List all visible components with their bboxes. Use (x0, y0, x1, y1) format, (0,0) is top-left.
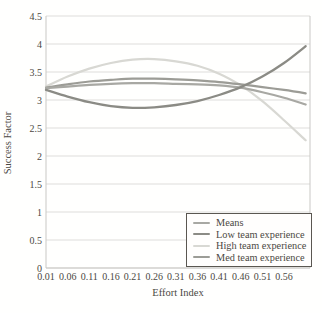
legend-swatch (193, 245, 210, 247)
legend-swatch (193, 256, 210, 258)
x-axis-title: Effort Index (152, 287, 204, 298)
x-tick-label: 0.11 (81, 271, 98, 282)
x-tick-label: 0.06 (59, 271, 77, 282)
x-tick-label: 0.41 (210, 271, 228, 282)
legend-swatch (193, 233, 210, 235)
y-tick-label: 3.5 (30, 67, 43, 78)
x-tick-label: 0.01 (37, 271, 55, 282)
series-lines (46, 46, 306, 140)
legend-item: High team experience (193, 240, 307, 252)
legend-swatch (193, 222, 210, 224)
legend: MeansLow team experienceHigh team experi… (186, 213, 312, 267)
y-tick-label: 1 (37, 207, 42, 218)
x-tick-label: 0.26 (145, 271, 163, 282)
y-tick-label: 2 (37, 151, 42, 162)
legend-item: Low team experience (193, 229, 307, 241)
y-tick-label: 1.5 (30, 179, 43, 190)
legend-item: Means (193, 217, 307, 229)
x-tick-label: 0.16 (102, 271, 120, 282)
legend-label: Low team experience (216, 229, 305, 241)
x-tick-label: 0.31 (167, 271, 185, 282)
chart-figure: 00.511.522.533.544.50.010.060.110.160.21… (0, 0, 322, 313)
x-tick-label: 0.36 (189, 271, 207, 282)
legend-label: Med team experience (216, 252, 305, 264)
legend-label: Means (216, 217, 243, 229)
legend-label: High team experience (216, 240, 306, 252)
x-tick-label: 0.21 (124, 271, 142, 282)
y-tick-label: 4 (37, 39, 42, 50)
y-tick-label: 0.5 (30, 235, 43, 246)
y-tick-label: 4.5 (30, 11, 43, 22)
y-tick-label: 3 (37, 95, 42, 106)
legend-item: Med team experience (193, 252, 307, 264)
y-tick-label: 2.5 (30, 123, 43, 134)
x-tick-label: 0.56 (275, 271, 293, 282)
x-tick-label: 0.46 (232, 271, 250, 282)
x-tick-label: 0.51 (254, 271, 272, 282)
series-line-low-team-experience (46, 46, 306, 108)
y-axis-title: Success Factor (2, 111, 13, 174)
